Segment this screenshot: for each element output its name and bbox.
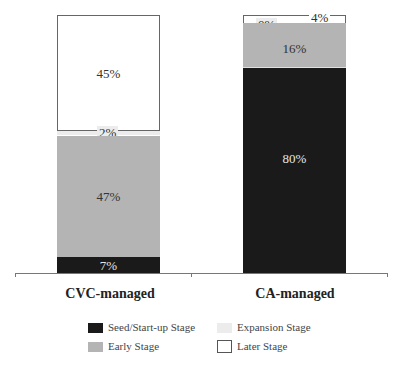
x-axis-tick [387,273,388,277]
legend-label-later: Later Stage [237,340,287,352]
value-label: 7% [100,259,117,272]
bar-segment-early: 47% [57,136,160,257]
legend-label-early: Early Stage [108,340,159,352]
bar-segment-early: 16% [243,23,346,67]
value-label: 16% [283,42,307,55]
legend-swatch-expansion [217,323,232,333]
x-axis-tick [191,273,192,277]
bar-segment-later: 45% [57,15,160,131]
legend-label-expansion: Expansion Stage [237,321,311,333]
x-axis-tick [15,273,16,277]
value-label: 45% [97,67,121,80]
category-label-ca: CA-managed [225,286,365,302]
category-label-cvc: CVC-managed [40,286,180,302]
bar-segment-seed: 80% [243,67,346,273]
x-axis-line [15,273,388,274]
legend-label-seed: Seed/Start-up Stage [108,321,195,333]
legend-swatch-later [217,340,232,353]
bar-segment-seed: 7% [57,257,160,273]
value-label: 80% [283,152,307,165]
legend-swatch-seed [88,323,103,333]
value-label: 47% [97,190,121,203]
legend-swatch-early [88,342,103,352]
